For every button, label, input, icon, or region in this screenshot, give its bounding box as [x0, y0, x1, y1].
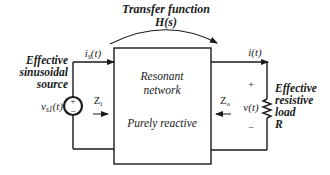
load-label-line3: load [275, 106, 296, 118]
network-label-line3: Purely reactive [126, 117, 197, 130]
transfer-arrow [110, 30, 217, 44]
load-label-line4: R [274, 118, 283, 130]
network-label-line2: network [143, 84, 181, 96]
load-label-line2: resistive [275, 94, 313, 106]
source-plus: + [70, 96, 75, 106]
load-voltage-label: v(t) [243, 101, 259, 114]
load-plus: + [248, 79, 254, 90]
load-minus: − [248, 122, 254, 133]
source-label-line2: sinusoidal [18, 66, 68, 78]
source-voltage-label: vs1(t) [41, 100, 63, 114]
resistor-icon [263, 99, 271, 118]
source-minus: − [70, 106, 75, 116]
transfer-function-symbol: H(s) [154, 15, 177, 29]
input-current-label: is(t) [85, 47, 102, 61]
output-current-label: i(t) [248, 46, 262, 59]
input-impedance-label: Zi [94, 95, 102, 108]
source-label-line3: source [36, 78, 68, 90]
resonant-network-box [114, 48, 211, 164]
transfer-function-label: Transfer function [122, 2, 210, 16]
output-impedance-label: Zo [220, 95, 230, 108]
resonant-converter-diagram: Transfer function H(s) Resonant network … [0, 0, 330, 175]
network-label-line1: Resonant [140, 70, 185, 82]
